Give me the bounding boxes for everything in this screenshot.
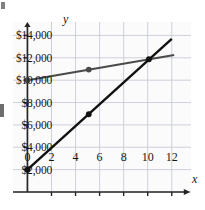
x-axis-tick-label: 8 (121, 150, 127, 165)
x-axis-tick-label: 12 (166, 150, 178, 165)
x-axis-label: x (192, 172, 197, 187)
x-axis-tick-label: 6 (97, 150, 103, 165)
x-axis-tick-label: 0 (24, 150, 30, 165)
x-axis-tick-label: 10 (142, 150, 154, 165)
y-axis-label: y (63, 12, 68, 27)
x-axis-tick-labels: 024681012 (13, 22, 191, 192)
scan-artifact-top-left (1, 2, 5, 9)
x-axis-tick-label: 4 (73, 150, 79, 165)
x-axis-tick-label: 2 (48, 150, 54, 165)
chart-figure: $2,000$4,000$6,000$8,000$10,000$12,000$1… (0, 0, 205, 210)
